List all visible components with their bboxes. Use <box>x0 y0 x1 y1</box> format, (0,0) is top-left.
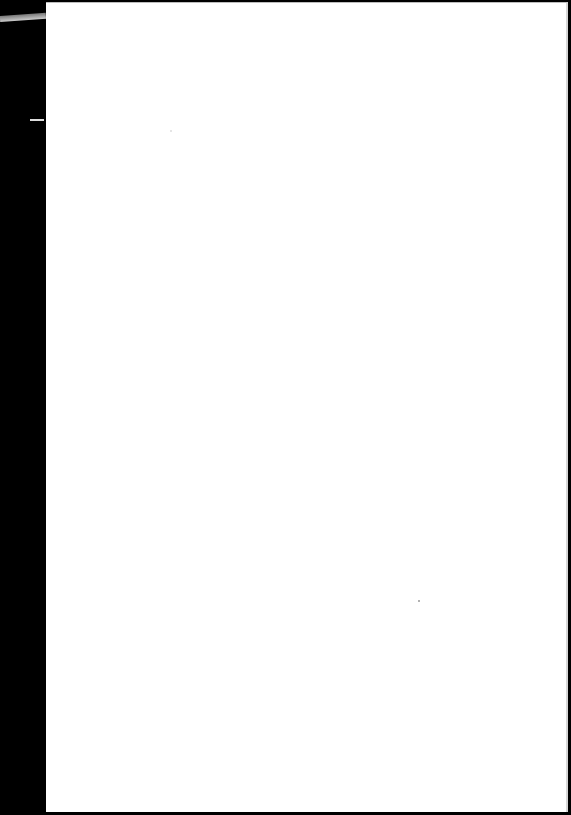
scan-artifact-tick <box>30 119 44 121</box>
blank-page <box>46 2 568 812</box>
dust-speck <box>418 600 420 602</box>
scan-black-edge <box>0 0 50 815</box>
dust-speck <box>170 130 172 132</box>
